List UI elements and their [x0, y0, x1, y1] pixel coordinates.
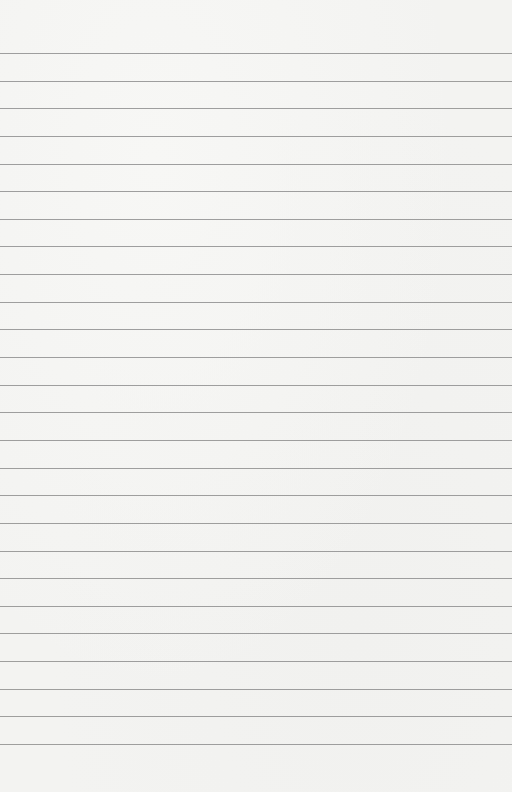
ruled-line: [0, 689, 512, 690]
ruled-line: [0, 357, 512, 358]
ruled-line: [0, 633, 512, 634]
ruled-line: [0, 81, 512, 82]
ruled-line: [0, 468, 512, 469]
ruled-line: [0, 302, 512, 303]
ruled-line: [0, 164, 512, 165]
ruled-line: [0, 716, 512, 717]
ruled-line: [0, 606, 512, 607]
ruled-line: [0, 661, 512, 662]
ruled-line: [0, 274, 512, 275]
lined-paper-sheet: [0, 0, 512, 792]
ruled-line: [0, 440, 512, 441]
ruled-line: [0, 551, 512, 552]
ruled-line: [0, 495, 512, 496]
ruled-line: [0, 412, 512, 413]
ruled-line: [0, 53, 512, 54]
ruled-line: [0, 136, 512, 137]
ruled-line: [0, 246, 512, 247]
ruled-line: [0, 523, 512, 524]
ruled-line: [0, 744, 512, 745]
ruled-line: [0, 385, 512, 386]
ruled-line: [0, 191, 512, 192]
ruled-line: [0, 108, 512, 109]
ruled-line: [0, 578, 512, 579]
ruled-line: [0, 329, 512, 330]
ruled-line: [0, 219, 512, 220]
